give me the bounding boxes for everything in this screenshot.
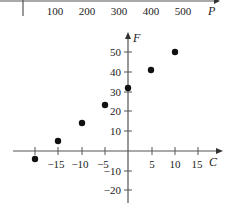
c-axis-label: C [209,155,218,169]
data-point [102,102,108,108]
f-tick-neg20: −20 [104,184,122,196]
data-point [125,85,131,91]
data-point [148,67,154,73]
figure: 100 200 300 400 500 P −15 −10 −5 5 10 15… [0,0,232,203]
scatter-chart: −15 −10 −5 5 10 15 C 50 40 30 20 10 −10 … [13,31,223,203]
data-point [55,138,61,144]
data-points [32,49,178,162]
f-tick-20: 20 [110,105,122,117]
f-tick-30: 30 [110,86,122,98]
c-tick-10: 10 [170,158,182,170]
f-axis-arrow-icon [125,32,131,39]
p-tick-200: 200 [79,5,96,17]
f-tick-10: 10 [110,125,122,137]
c-tick-neg10: −10 [71,158,89,170]
p-tick-300: 300 [111,5,128,17]
f-tick-neg10: −10 [104,165,122,177]
data-point [172,49,178,55]
f-axis-label: F [132,31,141,45]
p-tick-100: 100 [47,5,64,17]
f-tick-50: 50 [110,46,122,58]
p-tick-400: 400 [143,5,160,17]
data-point [32,156,38,162]
c-axis-arrow-icon [216,148,223,154]
c-tick-neg15: −15 [47,158,65,170]
top-partial-chart: 100 200 300 400 500 P [0,0,220,18]
data-point [79,120,85,126]
f-tick-40: 40 [110,66,122,78]
c-tick-5: 5 [149,158,155,170]
c-tick-15: 15 [192,158,204,170]
p-tick-500: 500 [175,5,192,17]
p-axis-label: P [207,4,216,18]
